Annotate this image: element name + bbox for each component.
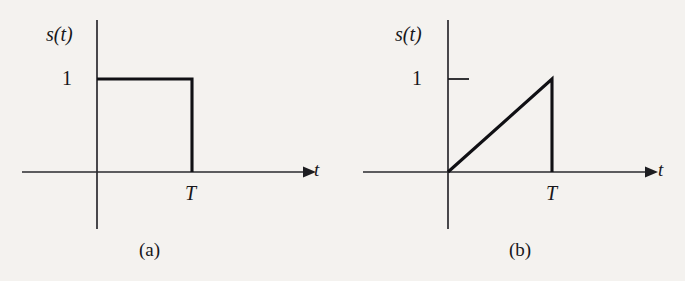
y-axis-label: s(t) (395, 24, 422, 44)
figure-root: s(t) 1 t T (a) s(t) 1 t T (b) (0, 0, 685, 281)
y-axis-tick-label-one: 1 (62, 68, 72, 88)
waveform-ramp-pulse (448, 79, 552, 172)
waveform-rectangular-pulse (97, 79, 192, 172)
panel-caption-b: (b) (509, 240, 531, 259)
panel-caption-a: (a) (139, 240, 160, 259)
x-axis-tick-label-T: T (185, 183, 196, 203)
panel-a-rectangular-pulse: s(t) 1 t T (a) (0, 0, 343, 281)
x-axis-tick-label-T: T (546, 183, 557, 203)
y-axis-label: s(t) (46, 24, 73, 44)
panel-b-ramp-pulse: s(t) 1 t T (b) (343, 0, 685, 281)
x-axis-label: t (658, 160, 663, 179)
x-axis-label: t (314, 160, 319, 179)
y-axis-tick-label-one: 1 (412, 68, 422, 88)
x-axis-arrowhead (645, 167, 658, 178)
